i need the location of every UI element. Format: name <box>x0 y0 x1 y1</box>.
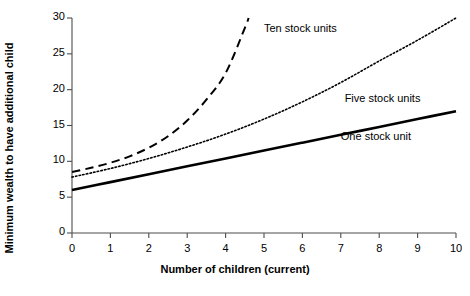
y-axis-title: Minimum wealth to have additional child <box>0 0 18 296</box>
x-axis-tick-label: 3 <box>175 242 199 254</box>
x-axis-ticks <box>72 233 456 238</box>
x-axis-tick-label: 6 <box>290 242 314 254</box>
y-axis-tick-label: 15 <box>31 118 65 130</box>
x-axis-tick-label: 7 <box>329 242 353 254</box>
series-label-ten-stock-units: Ten stock units <box>264 22 337 34</box>
x-axis-tick-label: 4 <box>214 242 238 254</box>
y-axis-tick-label: 0 <box>31 225 65 237</box>
y-axis-tick-label: 30 <box>31 10 65 22</box>
series-lines <box>72 18 456 190</box>
y-axis-tick-label: 10 <box>31 153 65 165</box>
x-axis-tick-label: 9 <box>406 242 430 254</box>
series-label-five-stock-units: Five stock units <box>345 92 421 104</box>
series-line-ten-stock-units <box>72 18 249 172</box>
x-axis-tick-label: 10 <box>444 242 468 254</box>
axis-lines <box>72 18 456 233</box>
x-axis-tick-label: 1 <box>98 242 122 254</box>
chart-figure: 051015202530 012345678910 One stock unit… <box>0 0 470 296</box>
y-axis-tick-label: 25 <box>31 46 65 58</box>
x-axis-tick-label: 8 <box>367 242 391 254</box>
x-axis-title: Number of children (current) <box>0 263 470 275</box>
x-axis-tick-label: 2 <box>137 242 161 254</box>
x-axis-tick-label: 0 <box>60 242 84 254</box>
x-axis-tick-label: 5 <box>252 242 276 254</box>
y-axis-tick-label: 20 <box>31 82 65 94</box>
y-axis-ticks <box>67 18 72 233</box>
series-line-one-stock-unit <box>72 111 456 190</box>
y-axis-tick-label: 5 <box>31 189 65 201</box>
series-label-one-stock-unit: One stock unit <box>341 130 411 142</box>
